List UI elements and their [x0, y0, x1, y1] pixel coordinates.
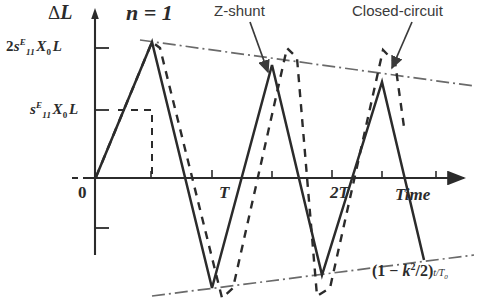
y-axis-title-text: L	[60, 1, 72, 23]
envelope-eq-exponent: t/T0	[433, 267, 448, 278]
callout-label-closed-circuit: Closed-circuit	[352, 3, 443, 18]
figure-canvas: ΔL n = 1 Z-shunt Closed-circuit 2sE11 X0…	[0, 0, 480, 302]
callout-label-z-shunt: Z-shunt	[214, 3, 265, 18]
envelope-equation-label: (1 − k2/2)t/T0	[372, 262, 448, 281]
dashed-hold-step	[118, 110, 152, 176]
y-axis-ticks	[95, 48, 109, 228]
upper-envelope	[140, 40, 474, 86]
plot-area	[0, 0, 480, 302]
y-axis-arrowhead	[91, 8, 99, 19]
dashed-hold-step-path	[118, 110, 152, 176]
y-axis-title: ΔL	[48, 2, 72, 22]
x-tick-label-0: 0	[78, 184, 87, 201]
y-tick-label-s11ex0l: sE11 X0 L	[30, 101, 78, 120]
annotation-n-equals-1: n = 1	[126, 2, 173, 24]
dashed-curve-path	[96, 42, 404, 298]
envelope-eq-base: (1 − k	[372, 262, 410, 279]
solid-curve-path	[96, 42, 424, 288]
callout-arrows	[250, 22, 412, 72]
x-axis-ticks	[151, 170, 436, 178]
callout-arrow-closed	[392, 22, 412, 68]
x-tick-label-t: T	[219, 184, 229, 201]
x-axis-title: Time	[395, 186, 430, 203]
axis-lines	[86, 8, 464, 255]
envelope-eq-tail: /2)	[415, 262, 433, 279]
callout-arrow-zshunt	[250, 22, 268, 72]
dashed-curve	[96, 42, 404, 298]
solid-curve	[96, 42, 424, 288]
x-tick-label-2t: 2T	[330, 184, 349, 201]
y-tick-label-2s11ex0l: 2sE11 X0 L	[6, 38, 62, 57]
